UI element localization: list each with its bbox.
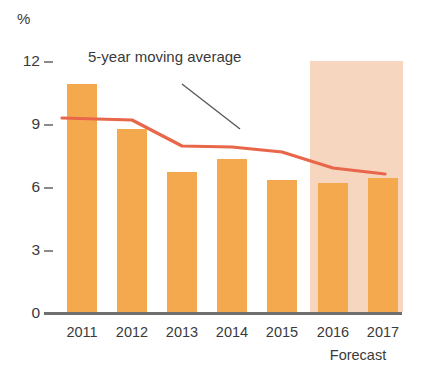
x-axis-line: [44, 312, 402, 315]
bar-2016: [318, 183, 348, 312]
bar-2014: [217, 159, 247, 312]
bar-2012: [117, 129, 147, 312]
forecast-label: Forecast: [313, 347, 403, 363]
y-tick-label-0: 0: [14, 304, 40, 322]
y-tick-label-3: 3: [14, 241, 40, 259]
x-tick-label-2014: 2014: [207, 324, 257, 340]
chart-container: % 12 9 6 3 0 5-year moving average 2011 …: [0, 0, 423, 370]
annotation-leader-line: [182, 84, 240, 129]
x-tick-label-2013: 2013: [157, 324, 207, 340]
y-tick-mark-6: [44, 187, 53, 189]
y-tick-mark-9: [44, 124, 53, 126]
x-tick-label-2011: 2011: [57, 324, 107, 340]
bar-2015: [267, 180, 297, 312]
x-tick-label-2015: 2015: [257, 324, 307, 340]
bar-2011: [67, 84, 97, 312]
y-tick-mark-12: [44, 61, 53, 63]
y-axis-unit-label: %: [17, 10, 30, 27]
moving-average-annotation: 5-year moving average: [88, 48, 241, 65]
x-tick-label-2016: 2016: [308, 324, 358, 340]
x-tick-label-2017: 2017: [358, 324, 408, 340]
y-tick-label-12: 12: [14, 52, 40, 70]
y-tick-label-9: 9: [14, 115, 40, 133]
bar-2017: [368, 178, 398, 312]
x-tick-label-2012: 2012: [107, 324, 157, 340]
y-tick-label-6: 6: [14, 178, 40, 196]
y-tick-mark-3: [44, 250, 53, 252]
bar-2013: [167, 172, 197, 312]
